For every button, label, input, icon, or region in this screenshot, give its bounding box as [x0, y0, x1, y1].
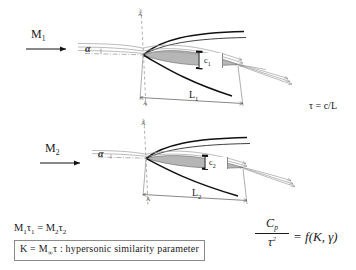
section-axis-top-label-2: A — [141, 120, 145, 126]
thickness-2-label: c2 — [209, 158, 216, 169]
fraction-numerator: Cp — [255, 216, 289, 232]
mach-number-1-label: M1 — [31, 28, 45, 43]
wake-streamlines-1 — [238, 65, 292, 85]
angle-of-attack-1-label: α — [85, 44, 91, 54]
thickness-callout-box-1 — [199, 53, 223, 69]
upper-diagram — [26, 10, 292, 108]
mach-number-2-label: M2 — [45, 142, 59, 157]
section-axis-bottom-label-2: A — [146, 196, 150, 202]
k-definition-description: hypersonic similarity parameter — [66, 243, 199, 254]
tau-definition-label: τ = c/L — [309, 101, 337, 111]
section-axis-bottom-label-1: A — [143, 100, 147, 106]
pressure-coefficient-rhs: = f(K, γ) — [293, 229, 338, 245]
k-definition-lhs: K = M — [20, 243, 48, 254]
fraction-denominator: τ2 — [255, 234, 289, 250]
section-axis-top-label-1: A — [138, 11, 142, 17]
wake-streamlines-2 — [243, 168, 295, 187]
figure-canvas: M1 M2 α α A A A A c1 c2 L1 L2 τ = c/L M1… — [0, 0, 356, 270]
k-definition-colon: : — [57, 243, 65, 254]
lower-diagram — [40, 120, 295, 205]
similarity-parameter-box: K = M∞τ : hypersonic similarity paramete… — [14, 240, 205, 261]
length-2-label: L2 — [192, 188, 201, 201]
thickness-1-label: c1 — [204, 56, 211, 67]
pressure-coefficient-fraction: Cp τ2 — [255, 216, 289, 250]
section-axis-1 — [141, 10, 146, 108]
angle-of-attack-2-label: α — [98, 149, 104, 159]
length-1-label: L1 — [189, 90, 198, 103]
similarity-relation-equation: M1τ1 = M2τ2 — [14, 223, 66, 236]
